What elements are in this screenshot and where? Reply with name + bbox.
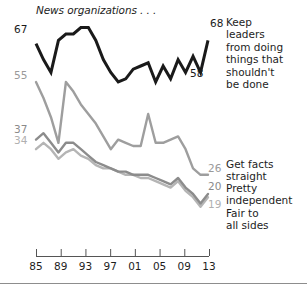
x-tick-label-13: 13 [198,260,220,272]
line-fair-to-all-sides [36,143,208,207]
series-lines [36,28,208,207]
value-label-20: 20 [208,181,221,192]
value-label-67: 67 [14,24,27,35]
value-label-68: 68 [210,18,223,29]
value-label-58: 58 [190,68,203,79]
value-label-26: 26 [208,163,221,174]
x-tick-label-97: 97 [99,260,121,272]
value-label-19: 19 [208,199,221,210]
x-axis [36,249,210,257]
x-tick-label-05: 05 [149,260,171,272]
line-keep-leaders [36,28,208,82]
value-label-55: 55 [14,70,27,81]
news-organizations-chart: News organizations . . . 67 55 37 34 68 … [0,0,307,291]
caption-pretty-independent: Pretty independent [226,182,292,207]
value-label-37: 37 [14,124,27,135]
caption-fair-to-all-sides: Fair to all sides [226,207,269,232]
caption-keep-leaders: Keep leaders from doing things that shou… [226,16,283,90]
x-tick-label-89: 89 [50,260,72,272]
value-label-34: 34 [14,135,27,146]
caption-get-facts-straight: Get facts straight [226,158,274,183]
x-tick-label-09: 09 [173,260,195,272]
x-tick-label-01: 01 [124,260,146,272]
line-get-facts-straight [36,82,208,175]
x-tick-label-93: 93 [74,260,96,272]
x-tick-label-85: 85 [25,260,47,272]
